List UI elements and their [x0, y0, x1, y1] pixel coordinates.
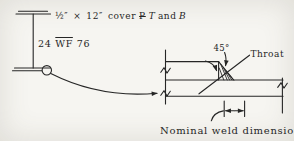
- section-weight: 76: [77, 38, 90, 49]
- detail-callout-circle: [42, 66, 51, 75]
- detail-leader-curve: [51, 74, 157, 95]
- angle-arrow-to-weld-face: [225, 53, 226, 66]
- top-flag: T: [149, 11, 156, 21]
- weld-angle-label: 45°: [214, 44, 230, 53]
- conjunction: and: [158, 11, 177, 21]
- dimension-leader-curve: [211, 111, 223, 121]
- cover-plate-note-text: ½″ × 12″ cover: [55, 11, 136, 21]
- throat-label: Throat: [251, 50, 285, 59]
- wide-flange-symbol: WF: [55, 38, 73, 49]
- angle-arrow-to-plate-edge: [206, 61, 217, 71]
- weld-detail-drawing: [161, 50, 287, 121]
- weld-hatching: [219, 64, 233, 80]
- bottom-flag: B: [179, 11, 186, 21]
- cover-plate-note: ½″ × 12″ coverPTandB: [55, 12, 186, 21]
- weld-diagram-svg: [0, 0, 294, 141]
- beam-section-label: 24WF76: [38, 39, 90, 49]
- nominal-weld-dimension-label: Nominal weld dimension: [160, 126, 294, 136]
- plate-symbol: P: [139, 11, 146, 21]
- section-depth: 24: [38, 38, 51, 49]
- figure-canvas: ½″ × 12″ coverPTandB 24WF76 45° Throat N…: [0, 0, 294, 141]
